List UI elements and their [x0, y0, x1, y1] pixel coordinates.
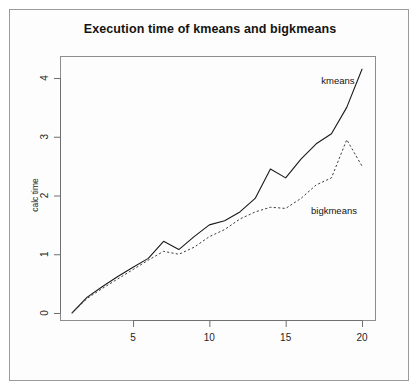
x-tick-label: 20 [356, 332, 368, 343]
chart-figure: Execution time of kmeans and bigkmeans c… [0, 0, 420, 392]
y-axis-ticks: 01234 [39, 75, 61, 316]
series-annotation-bigkmeans: bigkmeans [311, 205, 357, 216]
y-axis: 01234 [39, 75, 61, 316]
plot-area: 01234 5101520 kmeans bigkmeans [0, 0, 420, 392]
y-tick-label: 0 [39, 310, 50, 316]
series-line-kmeans [72, 69, 362, 313]
x-tick-label: 15 [280, 332, 292, 343]
x-axis: 5101520 [130, 321, 368, 344]
y-tick-label: 3 [39, 134, 50, 140]
y-tick-label: 1 [39, 251, 50, 257]
series-line-bigkmeans [72, 140, 362, 313]
x-tick-label: 10 [204, 332, 216, 343]
y-tick-label: 2 [39, 192, 50, 198]
y-tick-label: 4 [39, 75, 50, 81]
series-annotation-kmeans: kmeans [321, 75, 355, 86]
x-tick-label: 5 [130, 332, 136, 343]
plot-panel-box [61, 57, 376, 321]
x-axis-ticks: 5101520 [130, 321, 368, 344]
